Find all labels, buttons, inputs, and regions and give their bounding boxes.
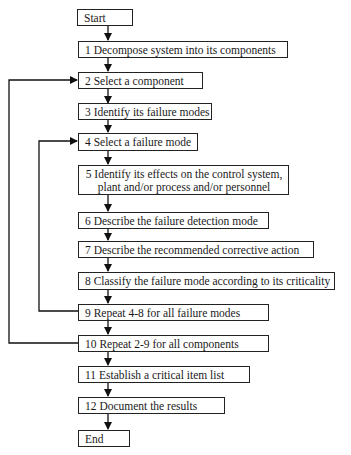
- step-start: Start: [77, 9, 133, 26]
- step-11-critical-item-list: 11 Establish a critical item list: [78, 366, 250, 383]
- step-label: 6 Describe the failure detection mode: [85, 215, 258, 227]
- step-9-repeat-failure-modes: 9 Repeat 4-8 for all failure modes: [78, 304, 269, 321]
- step-label: 11 Establish a critical item list: [85, 369, 224, 381]
- step-label: 1 Decompose system into its components: [85, 44, 276, 56]
- step-label-line-1: 5 Identify its effects on the control sy…: [85, 168, 283, 181]
- step-end: End: [78, 430, 130, 447]
- step-label: End: [85, 433, 104, 445]
- fmea-flowchart: Start 1 Decompose system into its compon…: [0, 0, 351, 455]
- step-label: 8 Classify the failure mode according to…: [85, 275, 330, 287]
- step-4-select-failure-mode: 4 Select a failure mode: [78, 133, 198, 151]
- step-12-document-results: 12 Document the results: [78, 397, 225, 414]
- step-10-repeat-components: 10 Repeat 2-9 for all components: [78, 335, 269, 352]
- step-3-identify-failure-modes: 3 Identify its failure modes: [78, 103, 212, 120]
- step-5-identify-effects: 5 Identify its effects on the control sy…: [78, 165, 289, 195]
- step-label: 10 Repeat 2-9 for all components: [85, 338, 239, 350]
- step-2-select-component: 2 Select a component: [78, 72, 203, 89]
- step-label: 12 Document the results: [85, 400, 197, 412]
- step-7-describe-corrective-action: 7 Describe the recommended corrective ac…: [78, 241, 314, 258]
- step-6-describe-detection-mode: 6 Describe the failure detection mode: [78, 212, 269, 229]
- step-label: 2 Select a component: [85, 75, 184, 87]
- step-label: 4 Select a failure mode: [85, 136, 191, 148]
- step-label: Start: [84, 12, 106, 24]
- step-8-classify-criticality: 8 Classify the failure mode according to…: [78, 272, 335, 290]
- step-label-line-2: plant and/or process and/or personnel: [85, 181, 283, 194]
- step-label: 9 Repeat 4-8 for all failure modes: [85, 307, 240, 319]
- step-label: 3 Identify its failure modes: [85, 106, 210, 118]
- step-label: 7 Describe the recommended corrective ac…: [85, 244, 299, 256]
- step-1-decompose-system: 1 Decompose system into its components: [78, 41, 288, 58]
